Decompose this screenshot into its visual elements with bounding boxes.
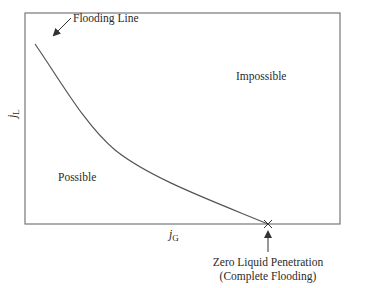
svg-text:jL: jL <box>5 109 21 120</box>
zero-penetration-label: Zero Liquid Penetration <box>213 256 324 269</box>
x-axis-sub: G <box>172 233 179 243</box>
y-axis-label: jL <box>5 109 21 120</box>
flooding-diagram: Flooding Line Impossible Possible jL jG … <box>0 0 388 288</box>
impossible-region-label: Impossible <box>236 70 286 83</box>
flooding-line-label: Flooding Line <box>73 12 139 25</box>
flooding-line-curve <box>35 44 268 224</box>
possible-region-label: Possible <box>58 171 96 183</box>
complete-flooding-label: (Complete Flooding) <box>220 270 317 283</box>
y-axis-sub: L <box>11 109 21 115</box>
plot-frame <box>25 13 340 224</box>
x-axis-label: jG <box>167 227 179 243</box>
flooding-line-arrow <box>54 18 71 35</box>
